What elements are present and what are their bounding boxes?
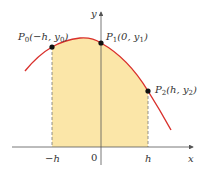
point-p1 bbox=[98, 40, 103, 45]
x-axis-label: x bbox=[188, 153, 194, 164]
diagram-canvas: P0(−h, y0) P1(0, y1) P2(h, y2) y x −h 0 … bbox=[0, 0, 200, 180]
tick-h: h bbox=[145, 153, 151, 164]
point-p0 bbox=[49, 44, 54, 49]
label-p2: P2(h, y2) bbox=[154, 84, 197, 97]
simpson-parabola-figure: P0(−h, y0) P1(0, y1) P2(h, y2) y x −h 0 … bbox=[0, 0, 200, 180]
shaded-area bbox=[52, 38, 148, 147]
y-axis-label: y bbox=[90, 8, 97, 19]
point-p2 bbox=[145, 88, 150, 93]
label-p1: P1(0, y1) bbox=[105, 31, 148, 44]
label-p0: P0(−h, y0) bbox=[17, 31, 68, 44]
tick-zero: 0 bbox=[91, 152, 97, 163]
tick-minus-h: −h bbox=[45, 153, 60, 164]
